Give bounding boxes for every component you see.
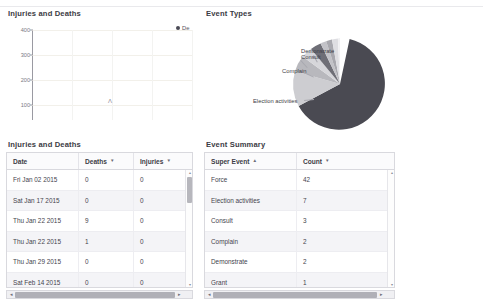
injuries-deaths-chart: De 400 300 200 100 Λ [0, 20, 200, 132]
cell-injuries: 0 [134, 211, 187, 231]
cell-count: 1 [297, 273, 389, 289]
column-header-deaths[interactable]: Deaths ▼ [79, 153, 134, 169]
column-header-deaths-label: Deaths [85, 158, 107, 165]
cell-deaths: 0 [79, 273, 134, 289]
event-types-chart: Demonstrate Consult Complain Election ac… [200, 20, 483, 138]
cell-date: Sat Jan 17 2015 [7, 191, 79, 211]
pie-label-complain: Complain [282, 68, 307, 74]
column-header-count[interactable]: Count ▼ [297, 153, 389, 169]
sort-desc-icon[interactable]: ▼ [166, 159, 171, 164]
scroll-right-icon[interactable]: ▸ [377, 291, 385, 298]
column-header-date[interactable]: Date [7, 153, 79, 169]
injuries-table-title: Injuries and Deaths [8, 140, 81, 149]
cell-deaths: 0 [79, 252, 134, 272]
table-row[interactable]: Thu Jan 22 2015 9 0 [7, 211, 192, 232]
injuries-chart-title: Injuries and Deaths [8, 9, 81, 18]
top-divider [0, 6, 483, 7]
cell-date: Thu Jan 22 2015 [7, 211, 79, 231]
cell-deaths: 9 [79, 211, 134, 231]
table-row[interactable]: Consult 3 [205, 211, 394, 232]
cell-count: 42 [297, 170, 389, 190]
event-types-title: Event Types [206, 9, 252, 18]
cell-injuries: 0 [134, 170, 187, 190]
vertical-scroll-thumb[interactable] [187, 177, 192, 203]
cell-date: Sat Feb 14 2015 [7, 273, 79, 289]
dashboard-page: Injuries and Deaths De 400 300 200 1 [0, 0, 483, 305]
injuries-deaths-table[interactable]: Date Deaths ▼ Injuries ▼ Fri Jan 02 2015… [6, 152, 193, 288]
cell-deaths: 0 [79, 191, 134, 211]
gridline-v-3 [152, 30, 153, 120]
scroll-left-icon[interactable]: ◂ [205, 291, 213, 298]
table-row[interactable]: Fri Jan 02 2015 0 0 [7, 170, 192, 191]
cell-super-event: Election activities [205, 191, 297, 211]
cell-date: Thu Jan 22 2015 [7, 232, 79, 252]
y-tick-mark-100 [30, 105, 33, 106]
cell-super-event: Demonstrate [205, 252, 297, 272]
cell-count: 7 [297, 191, 389, 211]
table-row[interactable]: Complain 2 [205, 232, 394, 253]
injuries-table-horizontal-scrollbar[interactable]: ◂ ▸ [6, 290, 193, 299]
cell-date: Thu Jan 29 2015 [7, 252, 79, 272]
injuries-table-body: Fri Jan 02 2015 0 0 Sat Jan 17 2015 0 0 … [7, 170, 192, 288]
cell-deaths: 1 [79, 232, 134, 252]
event-summary-title: Event Summary [206, 140, 265, 149]
table-row[interactable]: Grant 1 [205, 273, 394, 289]
event-summary-table-body: Force 42 Election activities 7 Consult 3… [205, 170, 394, 288]
event-summary-header-row: Super Event ▲ Count ▼ [205, 153, 394, 170]
cell-deaths: 0 [79, 170, 134, 190]
cell-injuries: 0 [134, 232, 187, 252]
scroll-right-icon[interactable]: ▸ [175, 291, 183, 298]
scroll-up-icon[interactable]: ▴ [389, 170, 394, 175]
table-row[interactable]: Election activities 7 [205, 191, 394, 212]
column-header-injuries-label: Injuries [140, 158, 163, 165]
column-header-super-event-label: Super Event [211, 158, 249, 165]
cell-injuries: 0 [134, 273, 187, 289]
cell-date: Fri Jan 02 2015 [7, 170, 79, 190]
cell-count: 2 [297, 232, 389, 252]
cell-injuries: 0 [134, 252, 187, 272]
scroll-down-icon[interactable]: ▾ [187, 282, 192, 287]
column-header-super-event[interactable]: Super Event ▲ [205, 153, 297, 169]
chart-plot-area: 400 300 200 100 Λ [32, 30, 192, 115]
scroll-down-icon[interactable]: ▾ [389, 282, 394, 287]
y-tick-mark-200 [30, 80, 33, 81]
table-row[interactable]: Sat Jan 17 2015 0 0 [7, 191, 192, 212]
column-header-count-label: Count [303, 158, 322, 165]
cell-super-event: Complain [205, 232, 297, 252]
pie-chart-svg [278, 32, 406, 136]
table-row[interactable]: Force 42 [205, 170, 394, 191]
column-header-date-label: Date [13, 158, 27, 165]
data-point-marker: Λ [108, 98, 112, 104]
table-row[interactable]: Demonstrate 2 [205, 252, 394, 273]
injuries-table-header-row: Date Deaths ▼ Injuries ▼ [7, 153, 192, 170]
sort-asc-icon[interactable]: ▲ [252, 159, 257, 164]
gridline-v-1 [72, 30, 73, 120]
injuries-table-vertical-scrollbar[interactable]: ▴ ▾ [185, 170, 192, 287]
pie-label-election-activities: Election activities [253, 98, 297, 104]
table-row[interactable]: Sat Feb 14 2015 0 0 [7, 273, 192, 289]
cell-super-event: Consult [205, 211, 297, 231]
cell-super-event: Grant [205, 273, 297, 289]
column-header-injuries[interactable]: Injuries ▼ [134, 153, 187, 169]
table-row[interactable]: Thu Jan 29 2015 0 0 [7, 252, 192, 273]
event-summary-vertical-scrollbar[interactable]: ▴ ▾ [387, 170, 394, 287]
gridline-v-4 [192, 30, 193, 120]
cell-injuries: 0 [134, 191, 187, 211]
sort-desc-icon[interactable]: ▼ [110, 159, 115, 164]
cell-count: 2 [297, 252, 389, 272]
y-tick-mark-400 [30, 30, 33, 31]
horizontal-scroll-thumb[interactable] [15, 292, 175, 298]
cell-super-event: Force [205, 170, 297, 190]
y-tick-mark-300 [30, 55, 33, 56]
scroll-left-icon[interactable]: ◂ [7, 291, 15, 298]
horizontal-scroll-thumb[interactable] [213, 292, 377, 298]
table-row[interactable]: Thu Jan 22 2015 1 0 [7, 232, 192, 253]
pie-label-consult: Consult [301, 54, 321, 60]
event-summary-horizontal-scrollbar[interactable]: ◂ ▸ [204, 290, 395, 299]
sort-desc-icon[interactable]: ▼ [325, 159, 330, 164]
cell-count: 3 [297, 211, 389, 231]
gridline-v-2 [112, 30, 113, 120]
scroll-up-icon[interactable]: ▴ [187, 170, 192, 175]
event-summary-table[interactable]: Super Event ▲ Count ▼ Force 42 Election … [204, 152, 395, 288]
